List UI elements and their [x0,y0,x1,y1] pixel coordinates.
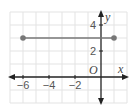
x-tick-label: −4 [43,79,56,91]
y-axis [98,10,104,105]
y-tick-label: 4 [90,19,96,31]
segment-endpoint-left [20,35,26,41]
y-axis-down-arrow-icon [98,98,104,105]
x-tick-label: −6 [17,79,30,91]
x-tick-label: −2 [69,79,82,91]
x-axis-label: x [117,62,124,76]
x-axis-left-arrow-icon [8,74,15,80]
coordinate-plane: −6 −4 −2 4 2 x y O [0,0,134,107]
segment-endpoint-right [111,35,117,41]
origin-label: O [89,63,98,77]
y-tick-label: 2 [90,45,96,57]
y-axis-label: y [104,10,111,24]
y-axis-up-arrow-icon [98,10,104,17]
line-segment [20,35,117,41]
